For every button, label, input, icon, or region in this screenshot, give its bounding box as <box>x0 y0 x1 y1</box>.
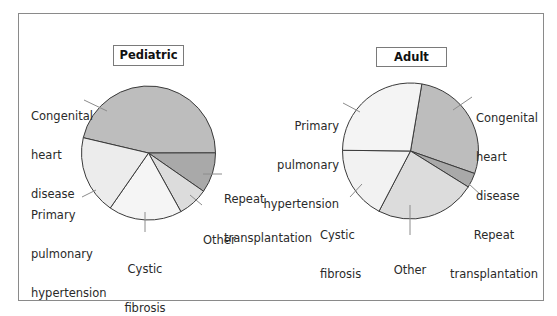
pediatric-title: Pediatric <box>113 45 184 66</box>
label-line: hypertension <box>31 287 107 300</box>
adult-title: Adult <box>376 47 447 67</box>
label-line: pulmonary <box>31 248 107 261</box>
label-line: transplantation <box>224 232 312 245</box>
label-line: disease <box>476 190 538 203</box>
label-line: Congenital <box>31 110 93 123</box>
ped-label-pph: Primary pulmonary hypertension <box>31 183 107 313</box>
adult-pie <box>342 83 478 219</box>
label-line: transplantation <box>443 268 545 281</box>
label-line: Primary <box>262 120 339 133</box>
label-line: fibrosis <box>320 268 361 281</box>
adult-label-repeat: Repeat transplantation <box>443 203 545 294</box>
label-line: fibrosis <box>115 302 175 315</box>
adult-label-congenital: Congenital heart disease <box>476 86 538 216</box>
label-line: Cystic <box>115 263 175 276</box>
label-line: Congenital <box>476 112 538 125</box>
label-line: Cystic <box>320 229 361 242</box>
pie-slice-primary-pulmonary-hypertension <box>343 83 422 151</box>
adult-label-other: Other <box>380 238 440 290</box>
label-line: Primary <box>31 209 107 222</box>
label-line: heart <box>31 149 93 162</box>
label-line: Other <box>380 264 440 277</box>
label-line: pulmonary <box>262 159 339 172</box>
adult-label-cf: Cystic fibrosis <box>320 203 361 294</box>
leader-adult-pph <box>343 103 360 112</box>
label-line: heart <box>476 151 538 164</box>
label-line: Repeat <box>443 229 545 242</box>
ped-label-cf: Cystic fibrosis <box>115 237 175 316</box>
